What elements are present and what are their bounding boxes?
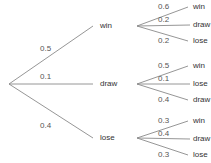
sub-branch-draw [137,25,190,26]
outcome-label-win: win [193,117,205,125]
probability-label: 0.5 [40,45,51,53]
probability-label: 0.2 [158,37,169,45]
probability-label: 0.1 [40,73,51,81]
outcome-label-draw: draw [193,96,210,104]
outcome-label-lose: lose [193,37,208,45]
probability-label: 0.3 [158,117,169,125]
probability-label: 0.4 [40,122,51,130]
sub-branch-draw [137,138,190,139]
outcome-label-win: win [193,62,205,70]
probability-label: 0.2 [158,16,169,24]
outcome-label-draw: draw [193,21,210,29]
outcome-label-lose: lose [193,151,208,159]
probability-label: 0.4 [158,96,169,104]
outcome-label-win: win [193,3,205,11]
outcome-label-draw: draw [193,135,210,143]
probability-label: 0.1 [158,75,169,83]
probability-label: 0.3 [158,151,169,159]
probability-label: 0.5 [158,62,169,70]
probability-label: 0.6 [158,3,169,11]
outcome-label-lose: lose [100,134,115,142]
probability-label: 0.4 [158,130,169,138]
outcome-label-lose: lose [193,80,208,88]
outcome-label-win: win [100,22,112,30]
outcome-label-draw: draw [100,80,117,88]
